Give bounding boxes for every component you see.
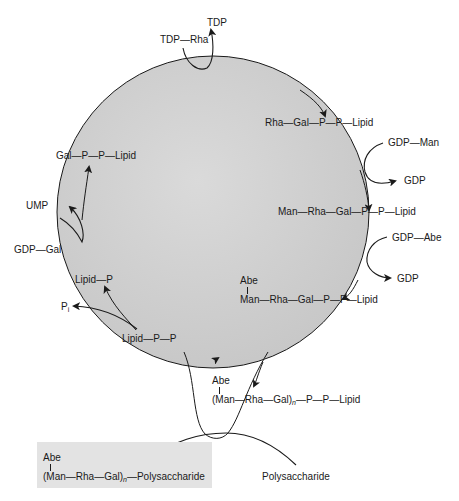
intermediate-man-rha-gal-pp-lipid: Man—Rha—Gal—P—P—Lipid bbox=[278, 206, 416, 218]
pi-subscript: i bbox=[68, 306, 70, 313]
polymer-lipid-intermediate: Abe (Man—Rha—Gal)n—P—P—Lipid bbox=[212, 376, 360, 405]
gdp-man-label: GDP—Man bbox=[388, 137, 439, 149]
intermediate-gal-pp-lipid: Gal—P—P—Lipid bbox=[56, 150, 136, 162]
pi-main: P bbox=[61, 301, 68, 312]
intermediate-lipid-pp: Lipid—P—P bbox=[122, 333, 176, 345]
pi-label: Pi bbox=[61, 301, 69, 313]
gdp-abe-label: GDP—Abe bbox=[392, 232, 441, 244]
intermediate-lipid-p: Lipid—P bbox=[75, 274, 113, 286]
polymer-abe-branch: Abe bbox=[212, 375, 230, 386]
tdp-rha-label: TDP—Rha bbox=[160, 34, 208, 46]
ump-label: UMP bbox=[26, 200, 48, 212]
polymer-suffix: —P—P—Lipid bbox=[296, 394, 360, 405]
product-suffix: —Polysaccharide bbox=[127, 471, 205, 482]
polymer-prefix: (Man—Rha—Gal) bbox=[212, 394, 292, 405]
gdp-man-arrow bbox=[364, 143, 395, 183]
gdp-released-abe-label: GDP bbox=[397, 273, 419, 285]
product-branch-bond bbox=[50, 464, 51, 471]
final-product: Abe (Man—Rha—Gal)n—Polysaccharide bbox=[43, 453, 205, 482]
tdp-label: TDP bbox=[207, 17, 227, 29]
gdp-released-man-label: GDP bbox=[404, 175, 426, 187]
product-abe-branch: Abe bbox=[43, 452, 61, 463]
intermediate-rha-gal-pp-lipid: Rha—Gal—P—P—Lipid bbox=[265, 117, 373, 129]
gdp-gal-label: GDP—Gal bbox=[14, 244, 61, 256]
branch-bond bbox=[247, 287, 248, 294]
gdp-abe-arrow bbox=[367, 237, 390, 278]
cycle-diagram-graphics bbox=[0, 0, 459, 501]
polymer-branch-bond bbox=[219, 387, 220, 394]
product-prefix: (Man—Rha—Gal) bbox=[43, 471, 123, 482]
polysaccharide-acceptor-label: Polysaccharide bbox=[262, 471, 330, 483]
intermediate-abe-man-rha-gal-pp-lipid: Abe Man—Rha—Gal—P—P—Lipid bbox=[240, 276, 378, 305]
abe-intermediate-chain: Man—Rha—Gal—P—P—Lipid bbox=[240, 294, 378, 305]
abe-branch-label: Abe bbox=[240, 275, 258, 286]
